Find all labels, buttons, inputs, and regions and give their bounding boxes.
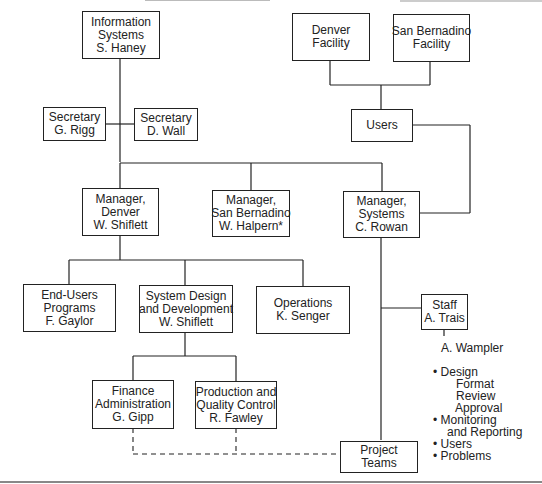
node-line: Facility (413, 38, 450, 51)
node-line: Production and (196, 386, 277, 399)
node-line: D. Wall (147, 125, 185, 138)
node-users: Users (351, 109, 413, 142)
bullet-icon: • (433, 413, 437, 427)
node-manager-san-bernadino: Manager, San Bernadino W. Halpern* (212, 190, 290, 237)
node-line: G. Rigg (54, 124, 95, 137)
node-line: Teams (361, 457, 396, 470)
node-line: Manager, (95, 193, 145, 206)
node-secretary-rigg: Secretary G. Rigg (43, 107, 106, 141)
node-line: System Design (146, 290, 227, 303)
node-line: Programs (43, 302, 95, 315)
node-line: K. Senger (276, 310, 329, 323)
node-end-users-programs: End-Users Programs F. Gaylor (23, 284, 116, 332)
list-item-text: Problems (441, 449, 492, 463)
node-secretary-wall: Secretary D. Wall (134, 108, 198, 141)
node-system-design: System Design and Development W. Shiflet… (139, 285, 233, 333)
node-production-quality-control: Production and Quality Control R. Fawley (195, 381, 277, 429)
node-line: and Development (139, 303, 233, 316)
node-information-systems: Information Systems S. Haney (82, 11, 160, 59)
node-operations: Operations K. Senger (256, 286, 350, 334)
node-denver-facility: Denver Facility (292, 13, 370, 61)
node-line: Systems (98, 29, 144, 42)
bullet-icon: • (433, 449, 437, 463)
node-line: Quality Control (196, 399, 275, 412)
node-manager-denver: Manager, Denver W. Shiflett (82, 188, 159, 236)
node-finance-administration: Finance Administration G. Gipp (92, 380, 174, 429)
node-line: A. Trais (424, 312, 465, 325)
node-line: R. Fawley (209, 412, 262, 425)
node-san-bernadino-facility: San Bernadino Facility (393, 14, 470, 62)
list-item: • Problems (433, 450, 491, 462)
node-line: Denver (101, 206, 140, 219)
staff-member-name: A. Wampler (441, 342, 503, 354)
node-line: End-Users (41, 289, 98, 302)
node-line: W. Shiflett (93, 219, 147, 232)
node-line: Secretary (140, 112, 191, 125)
node-line: S. Haney (96, 42, 145, 55)
node-line: F. Gaylor (45, 315, 93, 328)
node-manager-systems: Manager, Systems C. Rowan (343, 191, 420, 238)
node-line: Users (366, 119, 397, 132)
bottom-rule (0, 481, 542, 483)
node-line: W. Shiflett (159, 316, 213, 329)
node-project-teams: Project Teams (340, 441, 418, 473)
node-staff: Staff A. Trais (421, 294, 468, 330)
node-line: W. Halpern* (219, 220, 283, 233)
node-line: Information (91, 16, 151, 29)
node-line: C. Rowan (355, 221, 408, 234)
node-line: Facility (312, 37, 349, 50)
bullet-icon: • (433, 365, 437, 379)
node-line: G. Gipp (112, 411, 153, 424)
